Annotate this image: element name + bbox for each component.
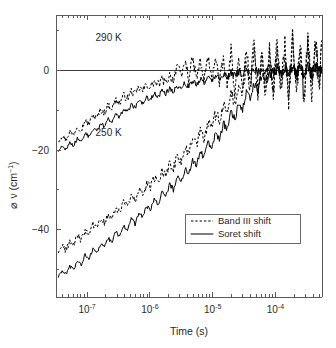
y-tick-label: 0 xyxy=(43,65,49,76)
y-axis-tick-labels: 0−20−40 xyxy=(32,65,49,235)
annotation-290k: 290 K xyxy=(96,32,122,43)
x-tick-label: 10-5 xyxy=(204,303,221,315)
y-tick-label: −20 xyxy=(32,145,49,156)
data-series-soret-shift-250-k xyxy=(58,62,321,277)
axes-layer xyxy=(56,15,322,297)
svg-text:⌀ ν (cm−1): ⌀ ν (cm−1) xyxy=(7,161,19,208)
x-tick-label: 10-6 xyxy=(141,303,158,315)
data-series-band-iii-shift-290-k xyxy=(58,29,321,142)
x-axis-title: Time (s) xyxy=(170,325,208,337)
legend: Band III shiftSoret shift xyxy=(185,214,300,243)
x-tick-label: 10-4 xyxy=(267,303,284,315)
axis-ticks-layer xyxy=(56,15,319,297)
legend-band-iii-shift: Band III shift xyxy=(218,215,271,226)
plot-annotations-layer: 290 K250 K xyxy=(96,32,122,138)
plot-frame xyxy=(56,15,322,297)
y-tick-label: −40 xyxy=(32,224,49,235)
y-axis-title: ⌀ ν (cm−1) xyxy=(7,161,19,208)
figure-container: 10-710-610-510-4 0−20−40 290 K250 K Band… xyxy=(0,0,336,348)
x-tick-label: 10-7 xyxy=(78,303,95,315)
x-axis-tick-labels: 10-710-610-510-4 xyxy=(78,303,284,315)
legend-soret-shift: Soret shift xyxy=(218,228,261,239)
chart-plot: 10-710-610-510-4 0−20−40 290 K250 K Band… xyxy=(0,0,336,348)
annotation-250k: 250 K xyxy=(96,127,122,138)
